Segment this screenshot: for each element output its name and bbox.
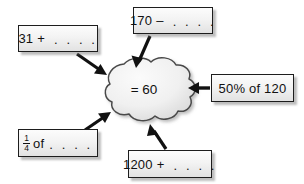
fraction-denominator: 4 — [23, 143, 30, 153]
expression-left: 31 + . . . . — [18, 31, 97, 46]
expression-top: 170 – . . . . — [130, 13, 216, 28]
expression-box-fraction[interactable]: 1 4 of . . . . — [18, 129, 98, 157]
operator-plus-bottom: + — [157, 157, 165, 172]
expression-fraction: 1 4 of . . . . — [23, 134, 93, 153]
blank-dots-left: . . . . — [54, 32, 97, 47]
blank-dots-bottom: . . . . — [174, 158, 217, 173]
operator-plus-left: + — [37, 31, 45, 46]
arrow-from-bottom-box — [147, 124, 166, 149]
arrow-from-fraction-box — [85, 112, 111, 130]
expression-bottom: 1200 + . . . . — [123, 157, 217, 172]
fraction-numerator: 1 — [23, 134, 30, 143]
operator-minus: – — [156, 13, 163, 28]
fraction-one-quarter: 1 4 — [23, 134, 30, 153]
expression-box-left[interactable]: 31 + . . . . — [18, 25, 98, 52]
arrow-from-left-box — [77, 54, 107, 75]
diagram-canvas: = 60 170 – . . . . 31 + . . . . 50% of 1… — [0, 0, 304, 184]
expression-box-bottom[interactable]: 1200 + . . . . — [128, 150, 212, 178]
blank-dots-fraction: . . . . — [49, 137, 92, 152]
expression-box-right[interactable]: 50% of 120 — [211, 74, 294, 102]
operand-31: 31 — [18, 31, 33, 46]
blank-dots-top: . . . . — [173, 14, 216, 29]
expression-box-top[interactable]: 170 – . . . . — [133, 7, 213, 34]
operand-170: 170 — [130, 13, 152, 28]
operand-1200: 1200 — [123, 157, 153, 172]
expression-right: 50% of 120 — [219, 81, 287, 96]
word-of: of — [33, 136, 44, 151]
cloud-value-label: = 60 — [103, 82, 185, 97]
